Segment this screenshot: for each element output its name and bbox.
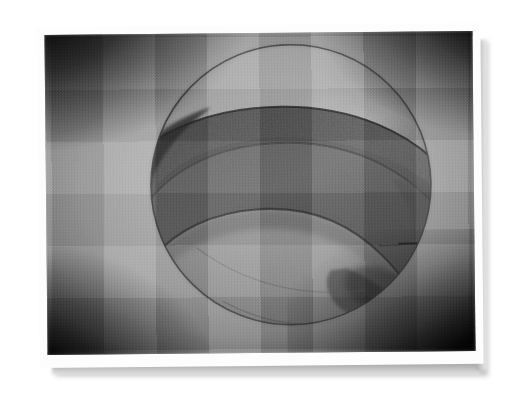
- photo-content: [44, 31, 475, 355]
- vignette-top-left: [44, 31, 251, 151]
- screenshot-canvas: [0, 0, 512, 399]
- vignette-bottom-left: [44, 245, 210, 355]
- vignette-top-right: [318, 31, 476, 135]
- vignette-bottom-right: [286, 229, 475, 355]
- photograph: [44, 31, 475, 355]
